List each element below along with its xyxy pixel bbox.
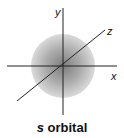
caption-text: orbital	[44, 120, 87, 135]
s-orbital-diagram: x y z	[0, 0, 124, 138]
diagram-caption: s orbital	[0, 121, 124, 135]
caption-variable: s	[37, 120, 44, 135]
x-axis-label: x	[110, 70, 117, 82]
y-axis-label: y	[54, 6, 62, 18]
z-axis-label: z	[106, 25, 113, 37]
